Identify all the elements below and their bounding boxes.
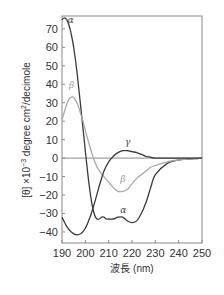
series-label: β <box>68 80 74 90</box>
y-tick-label: 0 <box>52 152 58 164</box>
y-tick-label: 20 <box>46 115 58 127</box>
x-tick-label: 210 <box>99 247 117 259</box>
y-tick-label: −40 <box>39 226 58 238</box>
series-label: γ <box>125 137 131 147</box>
x-tick-label: 190 <box>53 247 71 259</box>
x-tick-label: 230 <box>146 247 164 259</box>
series-label: α <box>68 15 74 25</box>
series-lines <box>62 18 202 235</box>
y-tick-label: −30 <box>39 207 58 219</box>
x-tick-label: 200 <box>76 247 94 259</box>
y-tick-label: 10 <box>46 134 58 146</box>
y-tick-label: 60 <box>46 41 58 53</box>
y-tick-label: −20 <box>39 189 58 201</box>
y-tick-label: −10 <box>39 171 58 183</box>
series-label: β <box>119 174 125 184</box>
x-axis-title: 波長 (nm) <box>110 262 153 274</box>
y-tick-label: 50 <box>46 60 58 72</box>
series-line-beta <box>62 97 202 192</box>
x-tick-label: 220 <box>123 247 141 259</box>
y-tick-label: 30 <box>46 97 58 109</box>
x-tick-label: 250 <box>193 247 211 259</box>
y-axis-title: [θ] ×10−3 degree cm2/decimole <box>20 62 32 198</box>
cd-spectrum-chart: αβγβα −40−30−20−100102030405060701902002… <box>0 0 224 295</box>
series-label: α <box>120 205 126 215</box>
y-tick-label: 70 <box>46 23 58 35</box>
x-tick-label: 240 <box>169 247 187 259</box>
y-tick-label: 40 <box>46 78 58 90</box>
